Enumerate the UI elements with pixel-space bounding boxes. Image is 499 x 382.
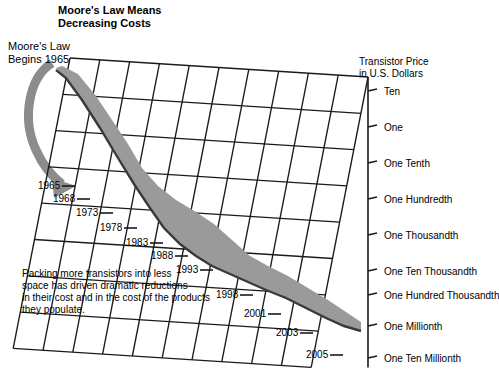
year-tick-label: 1978	[100, 222, 122, 233]
year-tick-label: 1998	[216, 289, 238, 300]
price-tick-label: One Ten Millionth	[384, 353, 461, 364]
chart-caption: Packing more transistors into less space…	[22, 268, 210, 316]
price-tick-label: One Ten Thousandth	[384, 266, 477, 277]
price-tick-label: One	[384, 122, 403, 133]
year-tick-label: 1973	[76, 207, 98, 218]
chart-title: Moore's Law Means Decreasing Costs	[58, 4, 161, 30]
year-tick-label: 1968	[53, 193, 75, 204]
year-tick-label: 1993	[176, 264, 198, 275]
moores-law-origin-label: Moore's Law Begins 1965	[8, 40, 70, 66]
price-tick-label: One Millionth	[384, 321, 442, 332]
year-tick-label: 1983	[126, 237, 148, 248]
year-tick-label: 2001	[244, 308, 266, 319]
year-tick-label: 1988	[151, 250, 173, 261]
year-tick-label: 2005	[306, 349, 328, 360]
year-tick-label: 1965	[38, 180, 60, 191]
year-tick-label: 2003	[276, 327, 298, 338]
price-axis-title: Transistor Price in U.S. Dollars	[359, 56, 429, 80]
price-tick-label: One Hundredth	[384, 194, 452, 205]
price-tick-label: Ten	[384, 86, 400, 97]
price-tick-label: One Tenth	[384, 158, 430, 169]
price-tick-label: One Hundred Thousandth	[384, 290, 499, 301]
price-axis	[368, 77, 377, 367]
price-tick-label: One Thousandth	[384, 230, 458, 241]
